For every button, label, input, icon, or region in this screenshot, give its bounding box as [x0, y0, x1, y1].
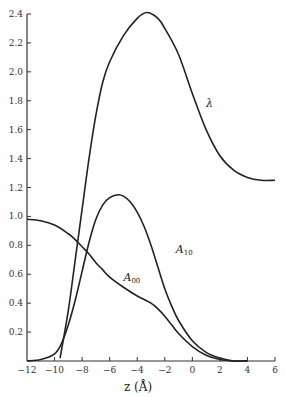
a10-label: A10 — [175, 243, 193, 257]
axis-ticks: −12−10−8−6−4−202460.20.40.60.81.01.21.41… — [9, 9, 278, 375]
y-tick-label: 1.6 — [9, 125, 24, 135]
y-tick-label: 0.8 — [9, 240, 24, 250]
x-tick-label: −10 — [45, 365, 64, 375]
x-axis-title: z (Å) — [124, 379, 152, 394]
x-tick-label: 4 — [245, 365, 251, 375]
y-tick-label: 1.2 — [9, 183, 23, 193]
x-tick-label: −4 — [131, 365, 145, 375]
x-tick-label: 6 — [272, 365, 278, 375]
y-tick-label: 0.6 — [9, 269, 24, 279]
y-tick-label: 0.4 — [9, 298, 24, 308]
x-tick-label: −6 — [103, 365, 117, 375]
series-lambda — [60, 13, 275, 359]
lambda-label: λ — [205, 97, 213, 110]
x-tick-label: −12 — [18, 365, 37, 375]
a00-label: A00 — [122, 271, 140, 285]
y-tick-label: 1.4 — [9, 154, 24, 164]
x-tick-label: 2 — [217, 365, 223, 375]
x-tick-label: 0 — [189, 365, 195, 375]
series-a00 — [27, 219, 247, 361]
curves — [27, 13, 275, 362]
y-tick-label: 1.0 — [9, 211, 24, 221]
y-tick-label: 2.0 — [9, 67, 24, 77]
y-tick-label: 2.2 — [9, 38, 23, 48]
x-tick-label: −2 — [158, 365, 171, 375]
y-tick-label: 1.8 — [9, 96, 24, 106]
y-tick-label: 0.2 — [9, 327, 23, 337]
x-tick-label: −8 — [75, 365, 89, 375]
y-tick-label: 2.4 — [9, 9, 24, 19]
axes — [27, 14, 275, 361]
line-chart: −12−10−8−6−4−202460.20.40.60.81.01.21.41… — [0, 0, 286, 397]
